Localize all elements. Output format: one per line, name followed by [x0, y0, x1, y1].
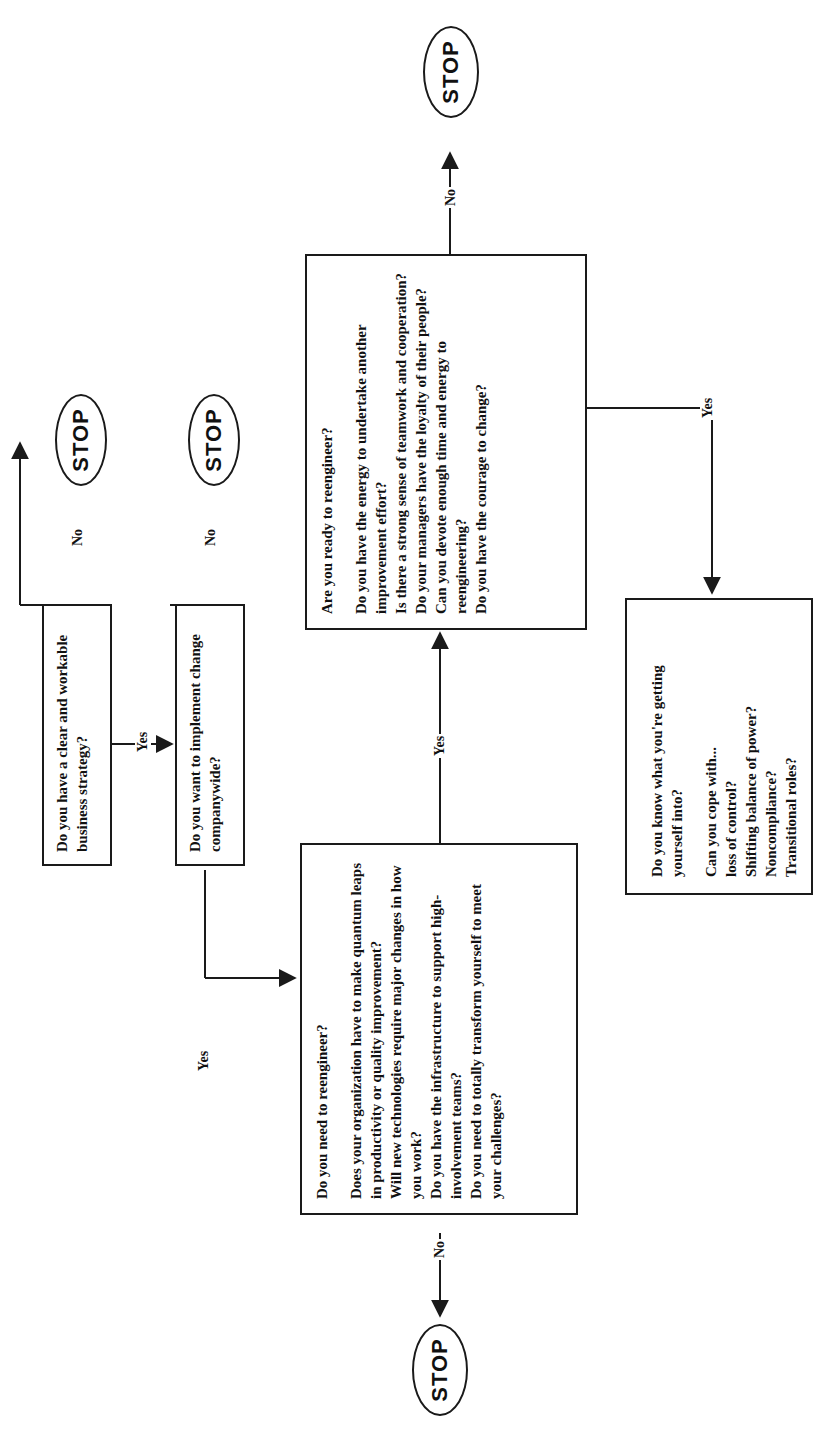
question-text: Do you have the courage to change?	[471, 270, 491, 614]
stop-label: STOP	[68, 408, 94, 472]
decision-business-strategy: Do you have a clear and workable busines…	[42, 604, 112, 866]
edge-label-yes: Yes	[196, 1049, 212, 1073]
decision-ready-to-reengineer: Are you ready to reengineer? Do you have…	[305, 254, 587, 630]
decision-change-companywide: Do you want to implement change companyw…	[175, 604, 245, 866]
question-subtitle: Can you cope with...	[701, 616, 721, 877]
edge-label-yes: Yes	[700, 396, 716, 420]
stop-terminal-4: STOP	[412, 1324, 468, 1416]
node-title: Do you need to reengineer?	[312, 859, 332, 1199]
question-text: Will new technologies require major chan…	[386, 859, 426, 1199]
stop-terminal-2: STOP	[188, 394, 240, 486]
stop-label: STOP	[201, 408, 227, 472]
question-text: loss of control?	[721, 616, 741, 877]
node-title: Are you ready to reengineer?	[317, 270, 337, 614]
question-text: Do you have a clear and workable busines…	[52, 618, 92, 852]
edge-label-no: No	[203, 527, 219, 548]
question-text: Is there a strong sense of teamwork and …	[391, 270, 411, 614]
question-text: Do you have the energy to undertake anot…	[351, 270, 391, 614]
stop-terminal-3: STOP	[423, 26, 479, 118]
question-text: Does your organization have to make quan…	[346, 859, 386, 1199]
question-text: Do you need to totally transform yoursel…	[466, 859, 506, 1199]
edge-label-no: No	[432, 1239, 448, 1260]
decision-know-what-you-get-into: Do you know what you're getting yourself…	[625, 598, 813, 895]
question-text: Shifting balance of power?	[741, 616, 761, 877]
stop-label: STOP	[438, 40, 464, 104]
question-text: Do you have the infrastructure to suppor…	[426, 859, 466, 1199]
question-text: Transitional roles?	[781, 616, 801, 877]
question-text: Do you want to implement change companyw…	[185, 618, 225, 852]
edge-label-yes: Yes	[432, 734, 448, 758]
stop-terminal-1: STOP	[55, 394, 107, 486]
flowchart-canvas: Do you have a clear and workable busines…	[0, 0, 833, 1448]
stop-label: STOP	[427, 1338, 453, 1402]
edge-label-no: No	[443, 187, 459, 208]
question-text: Can you devote enough time and energy to…	[431, 270, 471, 614]
decision-need-to-reengineer: Do you need to reengineer? Does your org…	[300, 843, 578, 1215]
question-text: Noncompliance?	[761, 616, 781, 877]
edge-label-no: No	[70, 527, 86, 548]
edge-label-yes: Yes	[135, 730, 151, 754]
node-title: Do you know what you're getting yourself…	[647, 616, 687, 877]
question-text: Do your managers have the loyalty of the…	[411, 270, 431, 614]
